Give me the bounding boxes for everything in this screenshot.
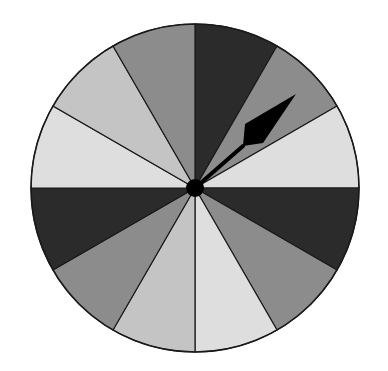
spinner-hub bbox=[186, 179, 204, 197]
spinner-stage bbox=[0, 0, 388, 371]
spinner-wheel[interactable] bbox=[0, 0, 388, 371]
